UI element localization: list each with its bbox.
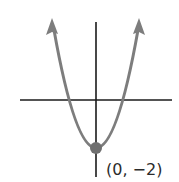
parabola-graph: (0, −2)	[0, 0, 179, 182]
vertex-point	[90, 142, 102, 154]
left-arrowhead-icon	[46, 18, 58, 35]
vertex-label: (0, −2)	[106, 160, 162, 179]
